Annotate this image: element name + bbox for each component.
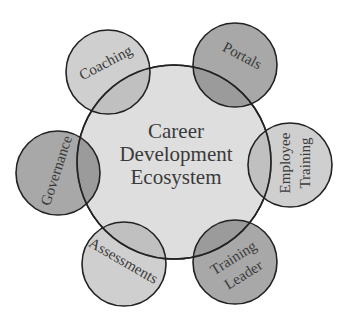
center-label-line3: Ecosystem — [131, 165, 222, 189]
satellite-employee-training: Employee Training — [248, 123, 332, 207]
satellite-assessments: Assessments — [82, 222, 166, 306]
center-label-line2: Development — [119, 142, 232, 166]
center-label-line1: Career — [148, 119, 204, 143]
satellite-training-leader: Training Leader — [193, 220, 277, 304]
satellite-portals: Portals — [193, 23, 277, 107]
career-ecosystem-diagram: Coaching Portals Employee Training Train… — [0, 0, 345, 321]
satellite-governance: Governance — [16, 131, 100, 215]
satellite-label-line2: Training — [297, 137, 313, 189]
satellite-label-line1: Employee — [277, 132, 293, 193]
